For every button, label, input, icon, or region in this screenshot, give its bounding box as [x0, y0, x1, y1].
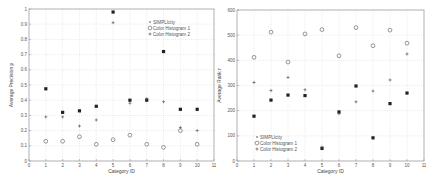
- histogram2-marker: [270, 89, 273, 92]
- histogram2-marker: [355, 100, 358, 103]
- y-axis-label: Average Rank r: [216, 68, 222, 103]
- histogram2-marker: [389, 78, 392, 81]
- x-tick-label: 0: [236, 163, 239, 168]
- histogram2-marker: [372, 90, 375, 93]
- simplicity-marker: [286, 93, 289, 96]
- histogram2-marker: [406, 53, 409, 56]
- x-tick-label: 4: [304, 163, 307, 168]
- y-tick-label: 200: [227, 108, 235, 113]
- histogram2-marker: [287, 76, 290, 79]
- legend-entry: SIMPLIcity: [260, 135, 283, 140]
- x-tick-label: 3: [287, 163, 290, 168]
- x-tick-label: 1: [253, 163, 256, 168]
- simplicity-marker: [388, 102, 391, 105]
- y-tick-label: 300: [227, 83, 235, 88]
- x-tick-label: 9: [389, 163, 392, 168]
- x-tick-label: 10: [404, 163, 410, 168]
- figure: 0123456789101100.10.20.30.40.50.60.70.80…: [0, 0, 441, 180]
- histogram1-marker: [255, 141, 259, 145]
- simplicity-marker: [405, 91, 408, 94]
- y-tick-label: 100: [227, 133, 235, 138]
- simplicity-marker: [269, 98, 272, 101]
- simplicity-legend-marker: [256, 136, 258, 138]
- legend-entry: Color Histogram 1: [260, 141, 297, 146]
- plot-area: 012345678910110100200300400500600Categor…: [216, 8, 427, 175]
- x-tick-label: 7: [355, 163, 358, 168]
- y-tick-label: 600: [227, 8, 235, 13]
- rank-chart: 012345678910110100200300400500600Categor…: [0, 0, 441, 180]
- simplicity-marker: [303, 94, 306, 97]
- x-tick-label: 8: [372, 163, 375, 168]
- histogram2-marker: [256, 148, 259, 151]
- simplicity-marker: [371, 136, 374, 139]
- y-tick-label: 400: [227, 58, 235, 63]
- x-tick-label: 2: [270, 163, 273, 168]
- histogram2-marker: [253, 81, 256, 84]
- histogram2-marker: [304, 88, 307, 91]
- simplicity-marker: [354, 84, 357, 87]
- simplicity-marker: [252, 115, 255, 118]
- y-tick-label: 500: [227, 33, 235, 38]
- legend: SIMPLIcityColor Histogram 1Color Histogr…: [255, 135, 297, 152]
- legend-entry: Color Histogram 2: [260, 147, 297, 152]
- x-axis-label: Category ID: [317, 168, 344, 174]
- x-tick-label: 11: [422, 163, 427, 168]
- series-color-histogram-1: [252, 26, 409, 64]
